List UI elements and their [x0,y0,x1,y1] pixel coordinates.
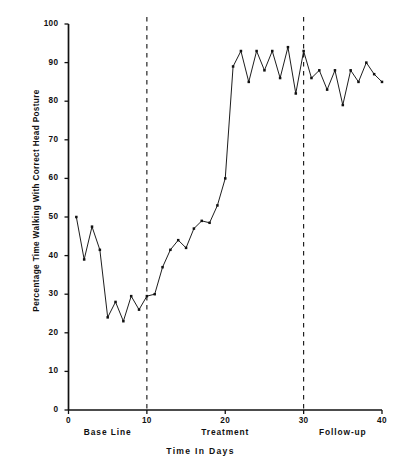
data-point-marker [357,81,360,84]
data-point-marker [138,308,141,311]
data-point-marker [224,177,227,180]
data-point-marker [381,81,384,84]
data-point-marker [373,73,376,76]
series-line [76,47,382,321]
data-series [75,46,383,323]
data-point-marker [255,50,258,53]
data-point-marker [169,249,172,252]
data-point-marker [302,50,305,53]
data-point-marker [153,293,156,296]
data-point-marker [365,61,368,64]
data-point-marker [75,216,78,219]
data-point-marker [99,249,102,252]
data-point-marker [248,81,251,84]
data-point-marker [310,77,313,80]
data-point-marker [208,222,211,225]
data-point-marker [263,69,266,72]
data-point-marker [287,46,290,49]
data-point-marker [193,227,196,230]
data-point-marker [130,295,133,298]
data-point-marker [122,320,125,323]
plot-area [0,0,401,467]
data-point-marker [295,92,298,95]
data-point-marker [232,65,235,68]
data-point-marker [271,50,274,53]
data-point-marker [185,247,188,250]
data-point-marker [279,77,282,80]
axis-ticks [65,24,383,414]
data-point-marker [106,316,109,319]
data-point-marker [326,88,329,91]
data-point-marker [216,204,219,207]
data-point-marker [342,104,345,107]
phase-divider-lines [147,17,304,410]
axes [69,24,383,410]
data-point-marker [240,50,243,53]
data-point-marker [177,239,180,242]
chart-figure: Percentage Time Walking With Correct Hea… [0,0,401,467]
data-point-marker [334,69,337,72]
data-point-marker [83,258,86,261]
data-point-marker [318,69,321,72]
data-point-marker [200,220,203,223]
data-point-marker [161,266,164,269]
data-point-marker [114,301,117,304]
data-point-marker [349,69,352,72]
data-point-marker [91,225,94,228]
data-point-marker [146,295,149,298]
